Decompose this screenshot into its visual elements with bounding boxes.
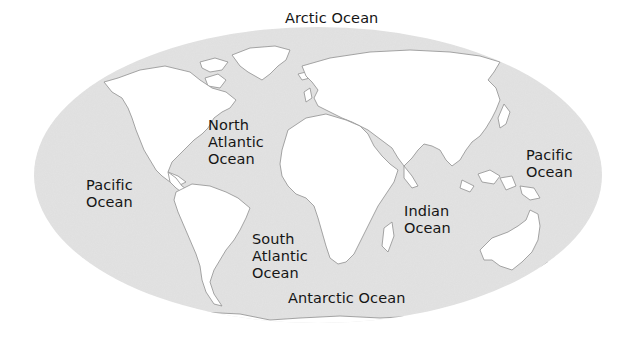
label-line: Antarctic Ocean bbox=[288, 290, 405, 307]
label-line: Ocean bbox=[404, 220, 451, 237]
label-line: Pacific bbox=[526, 147, 573, 164]
indian-ocean-label: Indian Ocean bbox=[404, 203, 451, 237]
world-map: Arctic Ocean North Atlantic Ocean Pacifi… bbox=[0, 0, 623, 350]
label-line: Ocean bbox=[252, 265, 308, 282]
south-atlantic-ocean-label: South Atlantic Ocean bbox=[252, 231, 308, 282]
label-line: Pacific bbox=[86, 177, 133, 194]
pacific-ocean-west-label: Pacific Ocean bbox=[86, 177, 133, 211]
label-line: North bbox=[208, 117, 264, 134]
label-line: South bbox=[252, 231, 308, 248]
label-line: Arctic Ocean bbox=[285, 10, 378, 27]
label-line: Ocean bbox=[526, 164, 573, 181]
antarctic-ocean-label: Antarctic Ocean bbox=[288, 290, 405, 307]
label-line: Atlantic bbox=[208, 134, 264, 151]
north-atlantic-ocean-label: North Atlantic Ocean bbox=[208, 117, 264, 168]
label-line: Ocean bbox=[86, 194, 133, 211]
label-line: Indian bbox=[404, 203, 451, 220]
arctic-ocean-label: Arctic Ocean bbox=[285, 10, 378, 27]
pacific-ocean-east-label: Pacific Ocean bbox=[526, 147, 573, 181]
label-line: Atlantic bbox=[252, 248, 308, 265]
label-line: Ocean bbox=[208, 151, 264, 168]
